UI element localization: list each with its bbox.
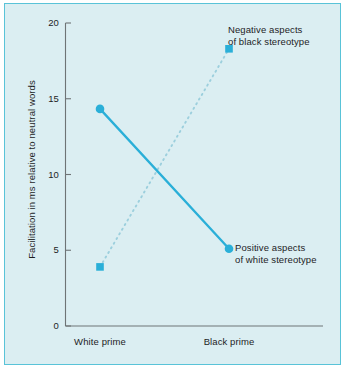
chart-plot-area (5, 4, 342, 366)
annotation-negative-line2: of black stereotype (228, 36, 310, 48)
marker-circle-white-prime (96, 105, 105, 114)
marker-square-white-prime (96, 263, 104, 271)
annotation-positive-white-stereotype: Positive aspects of white stereotype (235, 242, 317, 265)
figure-frame: 20 15 10 5 0 White prime Black prime Fac… (4, 3, 341, 365)
annotation-negative-line1: Negative aspects (228, 24, 310, 36)
series-line-negative-black (100, 49, 229, 267)
y-tick-label-0: 0 (27, 320, 59, 331)
series-line-positive-white (100, 109, 229, 249)
x-category-label-white-prime: White prime (50, 336, 150, 347)
y-tick-label-20: 20 (27, 17, 59, 28)
annotation-positive-line1: Positive aspects (235, 242, 317, 254)
annotation-negative-black-stereotype: Negative aspects of black stereotype (228, 24, 310, 47)
x-category-label-black-prime: Black prime (179, 336, 279, 347)
marker-circle-black-prime (225, 244, 234, 253)
y-axis-title: Facilitation in ms relative to neutral w… (26, 60, 37, 280)
annotation-positive-line2: of white stereotype (235, 254, 317, 266)
